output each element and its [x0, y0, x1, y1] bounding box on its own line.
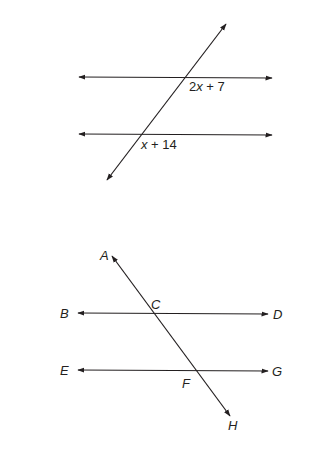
- point-label-d: D: [273, 307, 282, 322]
- transversal-line: [107, 24, 226, 180]
- angle-label-upper: 2x + 7: [189, 79, 225, 94]
- geometry-figures: 2x + 7 x + 14 A B C D E F G H: [0, 0, 309, 449]
- figure-parallel-lines-angles: 2x + 7 x + 14: [79, 24, 272, 180]
- point-label-h: H: [228, 418, 238, 433]
- point-label-e: E: [60, 363, 69, 378]
- point-label-c: C: [151, 297, 161, 312]
- upper-parallel-line: [79, 77, 272, 78]
- line-eg: [78, 370, 268, 371]
- point-label-a: A: [99, 248, 109, 263]
- line-bd: [78, 313, 268, 314]
- point-label-f: F: [182, 376, 191, 391]
- point-label-b: B: [60, 306, 69, 321]
- transversal-ah: [112, 256, 230, 416]
- point-label-g: G: [272, 364, 282, 379]
- angle-label-lower: x + 14: [140, 137, 177, 152]
- lower-parallel-line: [79, 134, 272, 135]
- figure-labeled-transversal: A B C D E F G H: [60, 248, 282, 433]
